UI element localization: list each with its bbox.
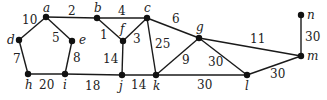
node-label-e: e	[79, 33, 86, 47]
node-m	[298, 53, 304, 59]
node-l	[244, 72, 250, 78]
node-j	[119, 72, 125, 78]
edge-weight-a-d: 10	[22, 13, 37, 27]
edge-weight-i-j: 18	[85, 79, 100, 93]
edge-i-j	[65, 74, 122, 75]
node-label-i: i	[63, 78, 67, 92]
edge-weight-c-f: 3	[133, 32, 141, 46]
node-label-d: d	[7, 33, 15, 47]
node-g	[196, 35, 202, 41]
node-d	[16, 37, 22, 43]
edge-weight-f-j: 14	[103, 52, 119, 66]
node-n	[298, 12, 304, 18]
node-label-g: g	[196, 20, 204, 34]
node-b	[94, 15, 100, 21]
node-label-j: j	[116, 79, 123, 93]
edge-weight-b-f: 1	[100, 28, 108, 42]
node-label-k: k	[153, 79, 160, 93]
node-label-f: f	[119, 22, 127, 36]
edge-weight-g-m: 11	[250, 32, 265, 46]
weighted-graph: 2105782018413141425693030113030 abcdefgh…	[0, 0, 327, 100]
edge-weight-m-n: 30	[305, 30, 320, 44]
node-i	[62, 71, 68, 77]
node-f	[120, 38, 126, 44]
edge-weight-a-b: 2	[68, 4, 76, 18]
edge-weight-c-g: 6	[172, 12, 180, 26]
edge-weight-e-i: 8	[73, 51, 81, 65]
edge-weight-k-l: 30	[197, 78, 212, 92]
node-label-m: m	[307, 49, 318, 63]
node-label-h: h	[25, 78, 33, 92]
node-label-a: a	[43, 1, 50, 15]
edge-weight-b-c: 4	[118, 4, 126, 18]
node-label-c: c	[144, 1, 151, 15]
node-label-n: n	[307, 8, 315, 22]
edge-weight-l-m: 30	[270, 67, 285, 81]
edge-weight-h-i: 20	[39, 78, 54, 92]
edge-weight-c-k: 25	[155, 37, 170, 51]
edge-f-j	[122, 41, 123, 75]
edge-weight-g-k: 9	[182, 53, 190, 67]
edge-weight-g-l: 30	[208, 55, 223, 69]
edge-weight-a-e: 5	[52, 31, 60, 45]
edge-e-i	[65, 41, 72, 74]
node-h	[25, 71, 31, 77]
node-label-b: b	[94, 1, 102, 15]
edge-weight-j-k: 14	[131, 78, 147, 92]
node-k	[153, 72, 159, 78]
node-e	[69, 38, 75, 44]
node-label-l: l	[245, 79, 249, 93]
edge-weight-d-h: 7	[13, 52, 21, 66]
node-c	[144, 15, 150, 21]
